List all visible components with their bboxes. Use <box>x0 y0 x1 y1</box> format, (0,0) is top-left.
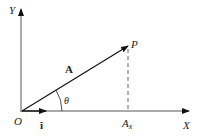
projection-ax-label: Ax <box>121 117 133 131</box>
point-p-label: P <box>130 38 138 50</box>
angle-arc <box>56 90 62 111</box>
vector-a <box>22 46 128 111</box>
origin-label: O <box>14 115 22 127</box>
vector-diagram: Y X O P A θ î Ax <box>0 0 201 139</box>
theta-label: θ <box>64 95 69 106</box>
y-axis-label: Y <box>9 4 17 16</box>
unit-vector-i-label: î <box>39 119 44 131</box>
x-axis-label: X <box>182 119 191 131</box>
vector-a-label: A <box>65 63 73 75</box>
projection-label-sub: x <box>128 122 133 131</box>
